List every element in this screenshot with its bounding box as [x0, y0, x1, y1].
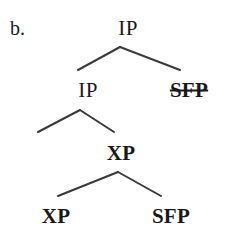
branch-root-left-edge: [78, 47, 120, 70]
tree-node-xp-3: XP: [107, 143, 136, 164]
tree-node-xp-leaf: XP: [42, 206, 71, 227]
branch-xp3-right-edge: [118, 172, 161, 196]
tree-branch-lines: [0, 0, 228, 236]
branch-ip2-left-edge: [38, 110, 80, 132]
tree-node-root-ip: IP: [118, 18, 138, 39]
branch-ip2-right-edge: [80, 110, 114, 132]
branch-root: [78, 47, 180, 70]
tree-node-ip-2: IP: [78, 80, 98, 101]
branch-root-right-edge: [120, 47, 180, 70]
figure-container: b. IPIPSFPXPXPSFP: [0, 0, 228, 236]
branch-xp3-left-edge: [58, 172, 118, 196]
tree-node-sfp-struck: SFP: [170, 80, 208, 101]
tree-node-sfp-leaf: SFP: [152, 206, 190, 227]
branch-xp3: [58, 172, 161, 196]
branch-ip2: [38, 110, 114, 132]
